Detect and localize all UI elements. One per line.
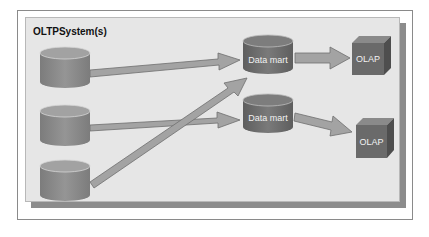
architecture-diagram <box>0 0 429 237</box>
oltp-database-icon <box>40 105 90 146</box>
arrow-oltp3-to-datamart1 <box>90 78 247 188</box>
olap-label: OLAP <box>352 54 384 64</box>
arrow-datamart1-to-olap1 <box>295 47 350 69</box>
arrow-oltp2-to-datamart2 <box>90 112 240 131</box>
arrow-oltp1-to-datamart1 <box>90 53 240 77</box>
oltp-database-icon <box>40 47 90 88</box>
arrow-datamart2-to-olap2 <box>294 113 352 136</box>
olap-label: OLAP <box>356 137 387 147</box>
data-mart-label: Data mart <box>243 113 293 123</box>
data-mart-label: Data mart <box>243 55 293 65</box>
oltp-database-icon <box>40 160 90 201</box>
